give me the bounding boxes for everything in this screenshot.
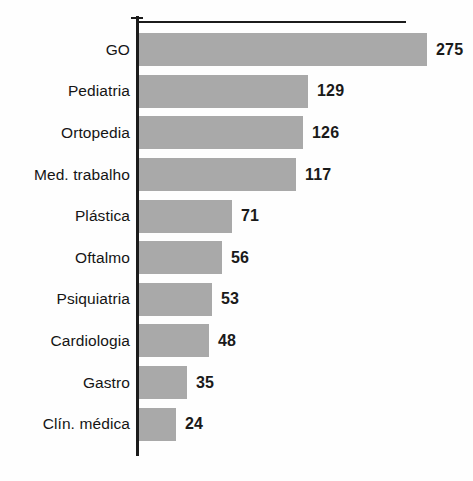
- category-label: Med. trabalho: [34, 166, 130, 184]
- bar-row: Gastro35: [0, 362, 473, 404]
- bar-and-value: 35: [139, 362, 214, 404]
- bar: [139, 324, 209, 357]
- bar-row: Clín. médica24: [0, 403, 473, 445]
- bar-value-label: 56: [231, 249, 249, 267]
- bar-and-value: 129: [139, 71, 344, 113]
- category-label: Clín. médica: [43, 415, 130, 433]
- category-label: GO: [106, 41, 130, 59]
- bar-row: Med. trabalho117: [0, 154, 473, 196]
- bar-chart: GO275Pediatria129Ortopedia126Med. trabal…: [0, 0, 473, 481]
- bar: [139, 200, 232, 233]
- bar-value-label: 129: [317, 82, 344, 100]
- bar-and-value: 275: [139, 29, 463, 71]
- bar-value-label: 126: [312, 124, 339, 142]
- bar-and-value: 48: [139, 320, 236, 362]
- bar-value-label: 275: [436, 41, 463, 59]
- category-label: Pediatria: [68, 82, 130, 100]
- bar-value-label: 117: [305, 166, 331, 184]
- category-label: Psiquiatria: [57, 290, 130, 308]
- category-label: Plástica: [75, 207, 130, 225]
- bar-value-label: 35: [196, 374, 214, 392]
- bar-value-label: 24: [185, 415, 203, 433]
- top-axis-line: [137, 21, 406, 23]
- bar: [139, 75, 308, 108]
- bar-and-value: 56: [139, 237, 249, 279]
- bar: [139, 158, 296, 191]
- bar-row: GO275: [0, 29, 473, 71]
- bar-and-value: 71: [139, 195, 259, 237]
- bar-row: Psiquiatria53: [0, 279, 473, 321]
- bar: [139, 408, 176, 441]
- bar-and-value: 24: [139, 403, 203, 445]
- bar-value-label: 48: [218, 332, 236, 350]
- bar-value-label: 53: [221, 290, 239, 308]
- bar-row: Pediatria129: [0, 71, 473, 113]
- axis-origin-tick-icon: [131, 17, 143, 19]
- category-label: Cardiologia: [50, 332, 130, 350]
- bar: [139, 241, 222, 274]
- bar: [139, 116, 303, 149]
- bar: [139, 33, 427, 66]
- category-label: Ortopedia: [61, 124, 130, 142]
- bar-rows: GO275Pediatria129Ortopedia126Med. trabal…: [0, 29, 473, 445]
- bar: [139, 283, 212, 316]
- bar-row: Cardiologia48: [0, 320, 473, 362]
- bar-row: Ortopedia126: [0, 112, 473, 154]
- category-label: Gastro: [83, 374, 130, 392]
- bar-row: Oftalmo56: [0, 237, 473, 279]
- category-label: Oftalmo: [75, 249, 130, 267]
- bar-row: Plástica71: [0, 195, 473, 237]
- bar-and-value: 53: [139, 279, 239, 321]
- bar-and-value: 126: [139, 112, 339, 154]
- bar-value-label: 71: [241, 207, 259, 225]
- bar: [139, 366, 187, 399]
- bar-and-value: 117: [139, 154, 331, 196]
